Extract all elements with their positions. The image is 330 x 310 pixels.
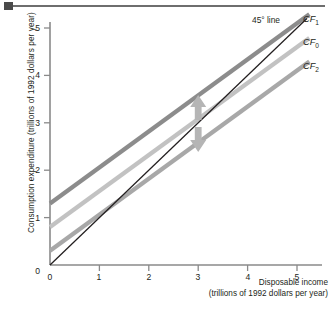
series-label-cf0-text: CF [303, 37, 315, 47]
series-label-cf0-sub: 0 [315, 42, 319, 49]
y-tick-label-0: 0 [26, 266, 40, 276]
series-line-cf2 [50, 62, 309, 251]
series-label-cf2-sub: 2 [315, 66, 319, 73]
series-label-cf1-text: CF [303, 14, 315, 24]
series-line-cf0 [50, 38, 309, 227]
series-label-cf2-text: CF [303, 61, 315, 71]
series-label-cf1: CF1 [303, 14, 319, 26]
x-tick-label-0: 0 [43, 272, 57, 282]
x-tick-label-1: 1 [92, 272, 106, 282]
x-tick-marks [99, 265, 297, 271]
x-axis-subtitle: (trillions of 1992 dollars per year) [150, 289, 328, 300]
x-axis-title: Disposable income [150, 278, 328, 289]
series-label-cf0: CF0 [303, 37, 319, 49]
y-tick-marks [44, 28, 50, 218]
series-label-cf2: CF2 [303, 61, 319, 73]
y-axis-title: Consumption expenditure (trillions of 19… [27, 8, 36, 238]
plot-svg [0, 0, 330, 310]
series-line-cf1 [50, 14, 309, 203]
figure-container: 5 4 3 2 1 0 0 1 2 3 4 5 Consumption expe… [0, 0, 330, 310]
annotation-45-degree-line: 45° line [252, 15, 280, 25]
x-axis-title-block: Disposable income (trillions of 1992 dol… [150, 278, 328, 299]
series-label-cf1-sub: 1 [315, 19, 319, 26]
series-line-45-degree [50, 19, 307, 266]
